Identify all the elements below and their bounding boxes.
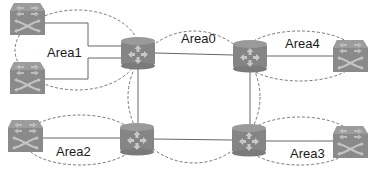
- link-r1-r2: [155, 53, 233, 55]
- area0-label: Area0: [181, 31, 216, 46]
- router-icon: [233, 40, 267, 73]
- link-sw1-r1: [45, 23, 121, 46]
- link-r3-r4: [153, 139, 232, 140]
- switch-icon: [8, 120, 43, 152]
- area4-label: Area4: [285, 36, 320, 51]
- router-icon: [120, 123, 154, 156]
- area2-label: Area2: [56, 144, 91, 159]
- switch-icon: [333, 126, 368, 158]
- router-icon: [121, 37, 155, 70]
- area3-label: Area3: [290, 146, 325, 161]
- switch-icon: [10, 62, 45, 94]
- switch-icon: [10, 3, 45, 35]
- link-sw2-r1: [45, 58, 121, 79]
- router-icon: [232, 124, 266, 157]
- switch-icon: [333, 40, 368, 72]
- area1-label: Area1: [47, 45, 82, 60]
